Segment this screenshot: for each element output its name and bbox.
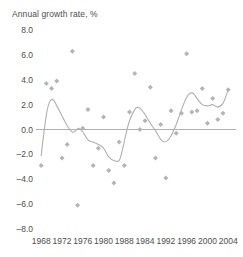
- data-point-marker: [106, 168, 111, 173]
- data-point-marker: [210, 96, 215, 101]
- x-tick-label: 1972: [53, 236, 72, 246]
- data-point-marker: [65, 142, 70, 147]
- x-axis: 1968197219761980198819841992199620002004: [36, 236, 236, 250]
- y-tick-label: –2.0: [16, 149, 33, 159]
- data-point-marker: [163, 176, 168, 181]
- x-tick-label: 1968: [32, 236, 51, 246]
- y-tick-label: 4.0: [21, 75, 33, 85]
- plot-svg: [36, 30, 236, 229]
- x-tick-label: 1976: [73, 236, 92, 246]
- y-axis: 8.06.04.02.00.0–2.0–4.0–6.0–8.0: [0, 0, 36, 257]
- data-point-marker: [215, 117, 220, 122]
- data-point-marker: [49, 86, 54, 91]
- y-tick-label: 6.0: [21, 50, 33, 60]
- data-point-marker: [70, 49, 75, 54]
- data-point-marker: [111, 180, 116, 185]
- trend-line: [41, 90, 228, 162]
- data-point-marker: [205, 121, 210, 126]
- data-point-marker: [91, 163, 96, 168]
- data-point-marker: [158, 122, 163, 127]
- data-point-marker: [122, 163, 127, 168]
- data-point-marker: [132, 71, 137, 76]
- data-point-marker: [184, 51, 189, 56]
- growth-rate-chart: Annual growth rate, % 8.06.04.02.00.0–2.…: [0, 0, 243, 257]
- x-tick-label: 1988: [115, 236, 134, 246]
- data-point-marker: [44, 81, 49, 86]
- data-point-marker: [85, 107, 90, 112]
- y-tick-label: –6.0: [16, 199, 33, 209]
- data-point-marker: [221, 111, 226, 116]
- data-point-marker: [117, 139, 122, 144]
- data-point-marker: [101, 115, 106, 120]
- y-tick-label: –8.0: [16, 224, 33, 234]
- x-tick-label: 1980: [94, 236, 113, 246]
- data-point-marker: [59, 156, 64, 161]
- data-point-marker: [169, 108, 174, 113]
- x-tick-label: 1984: [136, 236, 155, 246]
- y-tick-label: –4.0: [16, 174, 33, 184]
- data-point-marker: [153, 156, 158, 161]
- plot-area: [36, 30, 236, 229]
- data-point-markers: [39, 49, 231, 208]
- data-point-marker: [189, 110, 194, 115]
- y-tick-label: 8.0: [21, 25, 33, 35]
- data-point-marker: [127, 110, 132, 115]
- data-point-marker: [96, 146, 101, 151]
- data-point-marker: [143, 118, 148, 123]
- y-tick-label: 0.0: [21, 125, 33, 135]
- data-point-marker: [75, 203, 80, 208]
- data-point-marker: [148, 85, 153, 90]
- x-tick-label: 2000: [198, 236, 217, 246]
- data-point-marker: [39, 163, 44, 168]
- x-tick-label: 1996: [177, 236, 196, 246]
- data-point-marker: [137, 127, 142, 132]
- y-tick-label: 2.0: [21, 100, 33, 110]
- data-point-marker: [195, 108, 200, 113]
- data-point-marker: [200, 86, 205, 91]
- x-tick-label: 1992: [156, 236, 175, 246]
- data-point-marker: [174, 131, 179, 136]
- x-tick-label: 2004: [219, 236, 238, 246]
- data-point-marker: [54, 78, 59, 83]
- data-point-marker: [226, 87, 231, 92]
